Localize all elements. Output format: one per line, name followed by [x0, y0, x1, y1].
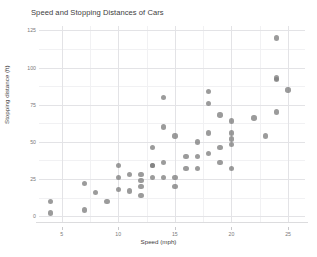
- gridline-major-vertical: [231, 26, 232, 222]
- y-tick-label: 50: [16, 139, 36, 145]
- data-point: [195, 139, 200, 144]
- y-tick-label: 25: [16, 176, 36, 182]
- gridline-major-vertical: [175, 26, 176, 222]
- x-axis-tick: [62, 227, 63, 230]
- data-point: [138, 178, 143, 183]
- data-point: [48, 210, 53, 215]
- data-point: [138, 184, 143, 189]
- data-point: [127, 172, 132, 177]
- gridline-major-vertical: [62, 26, 63, 222]
- data-point: [229, 166, 234, 171]
- data-point: [217, 112, 222, 117]
- scatter-chart: Speed and Stopping Distances of Cars 025…: [0, 0, 317, 257]
- gridline-minor-horizontal: [39, 49, 305, 50]
- data-point: [183, 154, 188, 159]
- x-tick-label: 20: [221, 231, 241, 237]
- data-point: [229, 142, 234, 147]
- data-point: [104, 199, 109, 204]
- data-point: [138, 193, 143, 198]
- data-point: [150, 145, 155, 150]
- x-axis-title: Speed (mph): [0, 238, 317, 245]
- gridline-major-horizontal: [39, 68, 305, 69]
- x-axis-tick: [231, 227, 232, 230]
- y-axis-title: Stopping distance (ft): [3, 66, 10, 124]
- chart-title: Speed and Stopping Distances of Cars: [31, 8, 164, 17]
- data-point: [116, 187, 121, 192]
- data-point: [172, 133, 177, 138]
- gridline-minor-horizontal: [39, 86, 305, 87]
- x-axis-tick: [288, 227, 289, 230]
- data-point: [206, 151, 211, 156]
- data-point: [48, 199, 53, 204]
- data-point: [150, 163, 155, 168]
- data-point: [206, 130, 211, 135]
- data-point: [127, 188, 132, 193]
- x-axis-tick: [118, 227, 119, 230]
- x-tick-label: 15: [165, 231, 185, 237]
- gridline-major-horizontal: [39, 142, 305, 143]
- data-point: [229, 130, 234, 135]
- data-point: [172, 175, 177, 180]
- data-point: [183, 166, 188, 171]
- x-axis-line: [36, 222, 308, 223]
- gridline-minor-horizontal: [39, 160, 305, 161]
- y-tick-label: 125: [16, 27, 36, 33]
- gridline-major-horizontal: [39, 216, 305, 217]
- x-tick-label: 5: [52, 231, 72, 237]
- gridline-major-vertical: [288, 26, 289, 222]
- data-point: [206, 89, 211, 94]
- data-point: [82, 207, 87, 212]
- gridline-minor-vertical: [90, 26, 91, 222]
- data-point: [150, 175, 155, 180]
- data-point: [274, 75, 279, 80]
- data-point: [217, 160, 222, 165]
- gridline-minor-vertical: [147, 26, 148, 222]
- data-point: [229, 136, 234, 141]
- plot-panel: [39, 26, 305, 222]
- data-point: [263, 133, 268, 138]
- gridline-minor-horizontal: [39, 198, 305, 199]
- y-tick-label: 0: [16, 213, 36, 219]
- data-point: [195, 166, 200, 171]
- data-point: [217, 145, 222, 150]
- data-point: [116, 175, 121, 180]
- gridline-minor-vertical: [260, 26, 261, 222]
- data-point: [251, 115, 256, 120]
- data-point: [274, 35, 279, 40]
- gridline-major-vertical: [118, 26, 119, 222]
- x-tick-label: 25: [278, 231, 298, 237]
- x-axis-tick: [175, 227, 176, 230]
- data-point: [172, 184, 177, 189]
- gridline-minor-vertical: [203, 26, 204, 222]
- y-tick-label: 75: [16, 102, 36, 108]
- gridline-major-horizontal: [39, 30, 305, 31]
- y-axis-tick-labels: 0255075100125: [14, 26, 36, 222]
- data-point: [274, 109, 279, 114]
- gridline-major-horizontal: [39, 105, 305, 106]
- data-point: [82, 181, 87, 186]
- data-point: [138, 172, 143, 177]
- gridline-minor-horizontal: [39, 123, 305, 124]
- y-tick-label: 100: [16, 65, 36, 71]
- data-point: [161, 124, 166, 129]
- data-point: [161, 160, 166, 165]
- data-point: [229, 118, 234, 123]
- data-point: [161, 95, 166, 100]
- x-axis-tick-labels: 510152025: [39, 227, 305, 237]
- data-point: [285, 87, 290, 92]
- data-point: [116, 163, 121, 168]
- x-tick-label: 10: [108, 231, 128, 237]
- data-point: [195, 154, 200, 159]
- data-point: [93, 190, 98, 195]
